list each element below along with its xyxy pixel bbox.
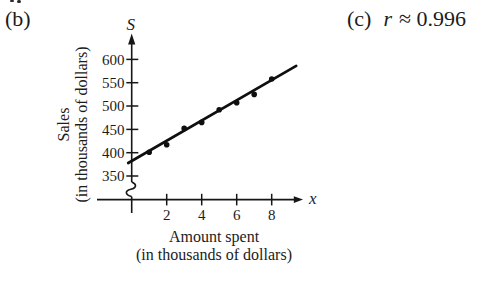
x-axis-ticks: 2468	[163, 194, 276, 223]
data-point	[164, 142, 170, 148]
data-point	[199, 120, 205, 126]
x-tick-label: 8	[268, 207, 276, 223]
x-tick-label: 6	[233, 207, 241, 223]
y-tick-label: 550	[102, 75, 125, 91]
y-tick-label: 350	[102, 168, 125, 184]
y-axis-break	[126, 182, 135, 197]
y-tick-label: 450	[102, 122, 125, 138]
data-point	[216, 107, 222, 113]
x-tick-label: 4	[198, 207, 206, 223]
x-tick-label: 2	[163, 207, 171, 223]
y-axis-symbol: S	[127, 15, 136, 34]
data-point	[146, 149, 152, 155]
y-tick-label: 500	[102, 98, 125, 114]
x-axis-title: Amount spent (in thousands of dollars)	[104, 228, 324, 263]
x-axis-arrow-icon	[294, 196, 303, 203]
data-point	[234, 100, 240, 106]
y-tick-label: 600	[102, 52, 125, 68]
y-axis-ticks: 350400450500550600	[102, 52, 138, 185]
y-axis-arrow-icon	[128, 34, 135, 45]
x-axis-symbol: x	[308, 189, 317, 208]
data-point	[269, 76, 275, 82]
y-tick-label: 400	[102, 145, 125, 161]
x-axis-title-line1: Amount spent	[104, 228, 324, 246]
data-point	[251, 92, 257, 98]
x-axis-title-line2: (in thousands of dollars)	[104, 246, 324, 264]
data-point	[181, 126, 187, 132]
figure-panel: (b) (c)r≈ 0.996 Sales (in thousands of d…	[0, 0, 502, 281]
